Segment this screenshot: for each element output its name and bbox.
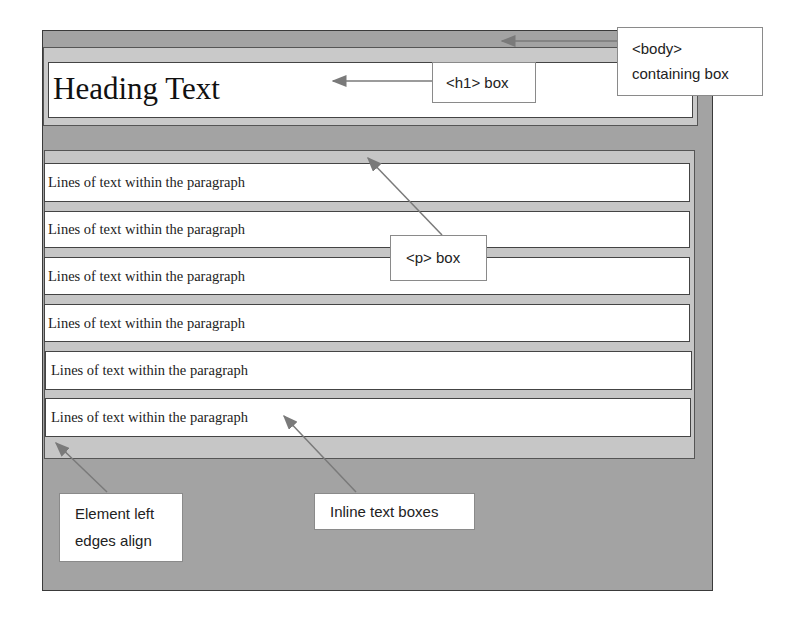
callout-text: Element left [75, 500, 182, 527]
callout-text: <body> [632, 36, 762, 61]
callout-p-box: <p> box [390, 235, 487, 281]
callout-inline-text-boxes: Inline text boxes [314, 493, 475, 530]
callout-body-containing-box: <body> containing box [617, 27, 763, 96]
callout-text: containing box [632, 61, 762, 86]
callout-h1-box: <h1> box [432, 62, 536, 103]
callout-left-edges-align: Element left edges align [59, 493, 183, 562]
callout-text: edges align [75, 527, 182, 554]
